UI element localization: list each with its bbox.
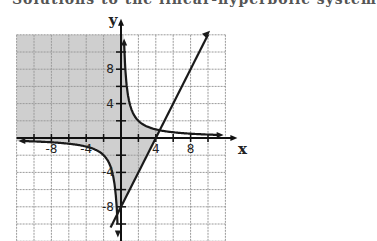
x-tick-label: -4 [80, 142, 92, 156]
y-tick-label: 4 [106, 97, 114, 111]
hyperbola-arrow-icon [115, 230, 121, 237]
shaded-region [17, 35, 160, 215]
y-tick-label: -8 [102, 200, 114, 214]
x-axis-label: x [238, 140, 248, 158]
y-axis-label: y [108, 11, 119, 29]
y-tick-label: -4 [102, 165, 114, 179]
x-tick-label: 8 [187, 142, 195, 156]
y-axis-arrow-icon [118, 19, 124, 26]
y-tick-label: 8 [106, 62, 114, 76]
shade-fill [17, 35, 160, 215]
x-axis-arrow-icon [230, 135, 237, 141]
x-tick-label: -8 [45, 142, 57, 156]
x-tick-label: 4 [152, 142, 160, 156]
